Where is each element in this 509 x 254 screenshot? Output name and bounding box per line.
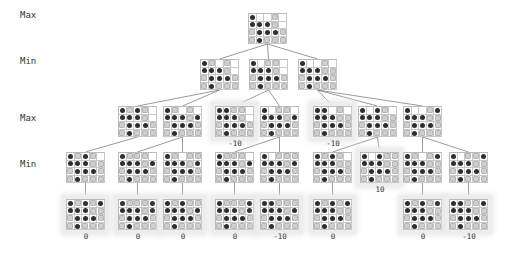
- board-cell: [361, 168, 369, 176]
- board-cell: [261, 223, 269, 231]
- game-board: [163, 106, 202, 137]
- light-square-icon: [280, 37, 286, 43]
- light-square-icon: [261, 130, 267, 136]
- board-cell: [280, 68, 288, 76]
- dark-circle-icon: [322, 169, 327, 174]
- light-square-icon: [284, 130, 290, 136]
- light-square-icon: [216, 223, 222, 229]
- dark-circle-icon: [202, 68, 207, 73]
- light-square-icon: [127, 200, 133, 206]
- light-square-icon: [119, 223, 125, 229]
- dark-circle-icon: [269, 115, 274, 120]
- board-cell: [142, 153, 150, 161]
- board-cell: [97, 200, 105, 208]
- board-cell: [291, 130, 299, 138]
- board-cell: [75, 176, 83, 184]
- dark-circle-icon: [240, 169, 245, 174]
- board-cell: [412, 115, 420, 123]
- board-cell: [359, 115, 367, 123]
- dark-circle-icon: [224, 115, 229, 120]
- game-board: [403, 106, 442, 137]
- dark-circle-icon: [322, 161, 327, 166]
- board-cell: [314, 223, 322, 231]
- light-square-icon: [90, 200, 96, 206]
- dark-circle-icon: [277, 123, 282, 128]
- tree-edge: [183, 90, 220, 106]
- dark-circle-icon: [120, 108, 125, 113]
- dark-circle-icon: [262, 208, 267, 213]
- game-board: [313, 152, 352, 183]
- tree-edge: [318, 90, 333, 106]
- dark-circle-icon: [307, 76, 312, 81]
- light-square-icon: [276, 107, 282, 113]
- board-cell: [427, 223, 435, 231]
- board-cell: [450, 153, 458, 161]
- board-cell: [134, 130, 142, 138]
- light-square-icon: [172, 153, 178, 159]
- board-cell: [172, 200, 180, 208]
- board-cell: [231, 68, 239, 76]
- board-cell: [465, 153, 473, 161]
- board-cell: [134, 161, 142, 169]
- dark-circle-icon: [225, 76, 230, 81]
- board-cell: [209, 75, 217, 83]
- board-cell: [344, 130, 352, 138]
- board-cell: [216, 215, 224, 223]
- dark-circle-icon: [266, 76, 271, 81]
- light-square-icon: [427, 200, 433, 206]
- board-cell: [149, 200, 157, 208]
- light-square-icon: [481, 208, 487, 214]
- board-cell: [434, 176, 442, 184]
- board-cell: [276, 168, 284, 176]
- board-cell: [82, 176, 90, 184]
- board-cell: [284, 223, 292, 231]
- light-square-icon: [172, 200, 178, 206]
- dark-circle-icon: [322, 224, 327, 229]
- board-cell: [265, 60, 273, 68]
- board-cell: [465, 215, 473, 223]
- dark-circle-icon: [209, 76, 214, 81]
- board-cell: [273, 75, 281, 83]
- board-cell: [75, 161, 83, 169]
- board-cell: [164, 168, 172, 176]
- light-square-icon: [322, 60, 328, 66]
- board-cell: [127, 223, 135, 231]
- light-square-icon: [82, 223, 88, 229]
- dark-circle-icon: [412, 123, 417, 128]
- board-cell: [250, 83, 258, 91]
- board-cell: [322, 223, 330, 231]
- light-square-icon: [142, 107, 148, 113]
- light-square-icon: [345, 208, 351, 214]
- light-square-icon: [187, 153, 193, 159]
- light-square-icon: [392, 161, 398, 167]
- board-cell: [142, 223, 150, 231]
- board-cell: [67, 208, 75, 216]
- light-square-icon: [345, 176, 351, 182]
- board-cell: [276, 200, 284, 208]
- light-square-icon: [150, 176, 156, 182]
- node-score: 0: [403, 232, 443, 241]
- light-square-icon: [98, 208, 104, 214]
- board-cell: [412, 153, 420, 161]
- board-cell: [142, 115, 150, 123]
- light-square-icon: [201, 75, 207, 81]
- game-board: [118, 199, 157, 230]
- light-square-icon: [247, 168, 253, 174]
- board-cell: [209, 68, 217, 76]
- board-cell: [419, 115, 427, 123]
- board-cell: [194, 168, 202, 176]
- dark-circle-icon: [262, 201, 267, 206]
- dark-circle-icon: [172, 131, 177, 136]
- light-square-icon: [216, 83, 222, 89]
- board-cell: [246, 107, 254, 115]
- board-cell: [216, 107, 224, 115]
- board-cell: [75, 208, 83, 216]
- tree-node-aa: [118, 106, 157, 137]
- board-cell: [194, 115, 202, 123]
- light-square-icon: [390, 130, 396, 136]
- dark-circle-icon: [135, 169, 140, 174]
- light-square-icon: [119, 215, 125, 221]
- light-square-icon: [187, 161, 193, 167]
- tree-node-bbaa: 0: [215, 199, 254, 230]
- light-square-icon: [359, 122, 365, 128]
